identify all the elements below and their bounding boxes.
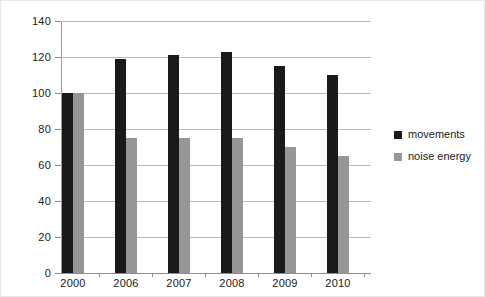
bar-movements-2008[interactable] — [221, 52, 232, 273]
legend-item[interactable]: noise energy — [394, 151, 471, 162]
bar-group — [327, 21, 349, 273]
bar-group — [221, 21, 243, 273]
x-axis-tick — [364, 273, 365, 277]
plot-area — [61, 21, 371, 273]
y-axis-tick-label: 40 — [7, 196, 51, 207]
y-axis-tick — [55, 201, 61, 202]
x-axis-tick — [311, 273, 312, 277]
y-axis-tick — [55, 21, 61, 22]
legend-item[interactable]: movements — [394, 129, 471, 140]
bar-noise-energy-2009[interactable] — [285, 147, 296, 273]
x-axis-tick-label: 2010 — [308, 278, 368, 289]
x-axis-tick — [258, 273, 259, 277]
y-axis-labels: 020406080100120140 — [1, 1, 51, 297]
bar-group — [168, 21, 190, 273]
bar-movements-2009[interactable] — [274, 66, 285, 273]
chart-legend: movementsnoise energy — [394, 129, 471, 173]
gridline — [61, 57, 371, 58]
bar-noise-energy-2007[interactable] — [179, 138, 190, 273]
x-axis-tick-label: 2000 — [43, 278, 103, 289]
chart-page: 020406080100120140 movementsnoise energy… — [0, 0, 485, 297]
bar-noise-energy-2010[interactable] — [338, 156, 349, 273]
bar-group — [115, 21, 137, 273]
gridline — [61, 273, 371, 274]
gridline — [61, 165, 371, 166]
bar-movements-2006[interactable] — [115, 59, 126, 273]
y-axis-tick — [55, 165, 61, 166]
x-axis-tick-label: 2006 — [96, 278, 156, 289]
x-axis-tick-label: 2009 — [255, 278, 315, 289]
y-axis-tick-label: 100 — [7, 88, 51, 99]
gridline — [61, 129, 371, 130]
bar-group — [274, 21, 296, 273]
gridline — [61, 93, 371, 94]
bar-noise-energy-2008[interactable] — [232, 138, 243, 273]
bar-movements-2010[interactable] — [327, 75, 338, 273]
bar-movements-2000[interactable] — [62, 93, 73, 273]
y-axis-tick — [55, 93, 61, 94]
x-axis-tick — [205, 273, 206, 277]
gridline — [61, 21, 371, 22]
gridline — [61, 201, 371, 202]
x-axis-tick-label: 2008 — [202, 278, 262, 289]
y-axis-tick — [55, 237, 61, 238]
bar-noise-energy-2000[interactable] — [73, 93, 84, 273]
y-axis-tick — [55, 129, 61, 130]
gridline — [61, 237, 371, 238]
legend-swatch-icon — [394, 153, 402, 161]
y-axis-tick-label: 20 — [7, 232, 51, 243]
y-axis-tick-label: 60 — [7, 160, 51, 171]
y-axis-tick-label: 80 — [7, 124, 51, 135]
y-axis-tick-label: 120 — [7, 52, 51, 63]
y-axis-tick-label: 140 — [7, 16, 51, 27]
bar-noise-energy-2006[interactable] — [126, 138, 137, 273]
x-axis-tick — [152, 273, 153, 277]
x-axis-tick-label: 2007 — [149, 278, 209, 289]
x-axis-tick — [99, 273, 100, 277]
y-axis-tick — [55, 57, 61, 58]
legend-label: noise energy — [408, 151, 471, 162]
legend-label: movements — [408, 129, 465, 140]
bar-movements-2007[interactable] — [168, 55, 179, 273]
y-axis-tick — [55, 273, 61, 274]
legend-swatch-icon — [394, 131, 402, 139]
bar-group — [62, 21, 84, 273]
